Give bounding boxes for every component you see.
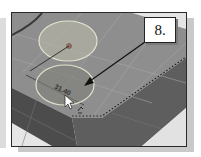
- page-edge: [0, 18, 6, 148]
- sketch-circle-upper: [39, 21, 97, 61]
- step-callout-label: 8.: [144, 17, 176, 43]
